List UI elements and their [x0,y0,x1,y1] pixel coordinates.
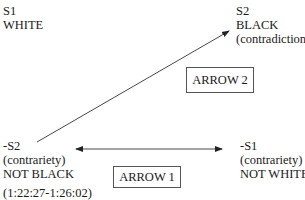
arrow1-label-box: ARROW 1 [113,166,181,188]
node-not-s1-label: NOT WHITE [240,167,305,181]
timestamp-text: (1:22:27-1:26:02) [3,186,92,200]
node-not-s1: -S1 (contrariety) NOT WHITE [240,139,305,181]
node-not-s1-relation: (contrariety) [240,153,305,167]
node-s2-code: S2 [236,4,305,18]
arrow2-label-box: ARROW 2 [186,67,254,93]
node-s2-relation: (contradiction) [236,32,305,46]
node-s1-code: S1 [3,4,43,18]
arrow1-label: ARROW 1 [119,170,175,185]
node-s1-label: WHITE [3,18,43,32]
node-not-s2-label: NOT BLACK [3,167,74,181]
node-not-s1-code: -S1 [240,139,305,153]
node-not-s2-relation: (contrariety) [3,153,74,167]
node-s2-label: BLACK [236,18,305,32]
arrow2-label: ARROW 2 [192,73,248,88]
node-not-s2: -S2 (contrariety) NOT BLACK [3,139,74,181]
node-not-s2-code: -S2 [3,139,74,153]
timestamp: (1:22:27-1:26:02) [3,186,92,200]
node-s2: S2 BLACK (contradiction) [236,4,305,46]
node-s1: S1 WHITE [3,4,43,32]
